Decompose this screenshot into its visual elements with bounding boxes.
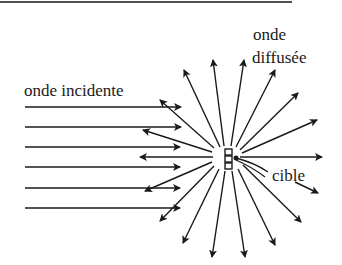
target-object — [225, 149, 239, 169]
incident-wave-label: onde incidente — [24, 81, 124, 100]
scattered-wave-label-line2: diffusée — [252, 48, 306, 67]
scattering-diagram: onde incidente onde diffusée cible — [0, 0, 342, 265]
scattered-wave-label-line1: onde — [253, 25, 286, 44]
target-label: cible — [272, 166, 305, 185]
